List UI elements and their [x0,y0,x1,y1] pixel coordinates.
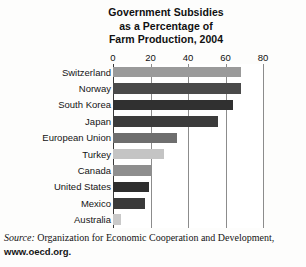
bar-row: Norway [0,80,306,96]
chart-title-line-2: as a Percentage of [0,20,306,34]
x-tick-label-20: 20 [145,52,156,63]
bar-row: European Union [0,130,306,146]
bar-row: Switzerland [0,64,306,80]
category-label-south-korea: South Korea [3,99,111,110]
bar-south-korea [113,100,233,111]
bar-japan [113,116,218,127]
x-tick-label-80: 80 [258,52,269,63]
bar-australia [113,214,121,225]
x-axis-tick-labels: 020406080 [0,52,306,64]
bar-row: United States [0,179,306,195]
bar-united-states [113,182,149,193]
chart-title: Government Subsidies as a Percentage of … [0,6,306,47]
bar-row: Canada [0,162,306,178]
bar-track [113,113,263,129]
bar-track [113,179,263,195]
x-tick-label-40: 40 [183,52,194,63]
source-text: Organization for Economic Cooperation an… [35,232,274,243]
chart-title-line-1: Government Subsidies [0,6,306,20]
bar-track [113,97,263,113]
bar-track [113,162,263,178]
bar-track [113,195,263,211]
bar-row: Australia [0,212,306,228]
bar-row: Japan [0,113,306,129]
bar-norway [113,83,241,94]
bar-row: South Korea [0,97,306,113]
category-label-canada: Canada [3,165,111,176]
bar-row: Turkey [0,146,306,162]
category-label-norway: Norway [3,83,111,94]
source-note: Source: Organization for Economic Cooper… [4,232,304,258]
category-label-switzerland: Switzerland [3,67,111,78]
category-label-australia: Australia [3,214,111,225]
bar-row: Mexico [0,195,306,211]
bar-switzerland [113,67,241,78]
category-label-united-states: United States [3,181,111,192]
chart-title-line-3: Farm Production, 2004 [0,33,306,47]
bar-track [113,212,263,228]
category-label-japan: Japan [3,116,111,127]
source-url[interactable]: www.oecd.org. [4,246,304,259]
category-label-turkey: Turkey [3,149,111,160]
bar-rows: SwitzerlandNorwaySouth KoreaJapanEuropea… [0,64,306,228]
bar-track [113,64,263,80]
source-prefix: Source: [4,232,35,243]
bar-track [113,146,263,162]
chart-figure: Government Subsidies as a Percentage of … [0,0,306,267]
bar-european-union [113,133,177,144]
category-label-european-union: European Union [3,132,111,143]
bar-track [113,130,263,146]
bar-canada [113,165,152,176]
x-tick-label-60: 60 [220,52,231,63]
bar-turkey [113,149,164,160]
bar-track [113,80,263,96]
category-label-mexico: Mexico [3,198,111,209]
bar-mexico [113,198,145,209]
x-tick-label-0: 0 [110,52,115,63]
